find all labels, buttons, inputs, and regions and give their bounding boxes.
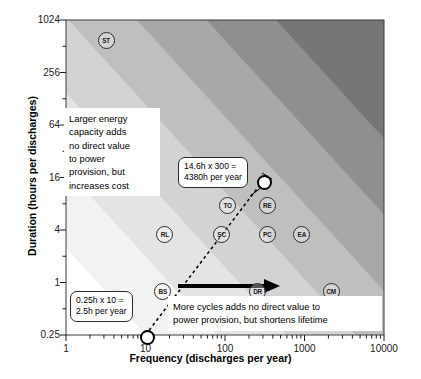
x-tick-label: 100 [195,343,255,354]
horizontal-note-text: More cycles adds no direct value to powe… [168,296,382,331]
x-tick-label: 10000 [354,343,414,354]
chart-figure: Frequency (discharges per year) Duration… [0,0,421,379]
callout-high-throughput: 14.6h x 300 = 4380h per year [178,157,248,188]
y-tick-label: 4 [14,224,60,235]
technology-marker: ST [98,32,115,49]
y-tick-label: 16 [14,172,60,183]
y-tick-label: 0.25 [14,329,60,340]
y-tick-label: 1 [14,277,60,288]
y-tick-label: 256 [14,67,60,78]
technology-marker: RE [259,197,276,214]
vertical-note-text: Larger energy capacity adds no direct va… [64,108,160,196]
x-tick-label: 10 [116,343,176,354]
callout-low-throughput: 0.25h x 10 = 2.5h per year [70,291,133,322]
x-tick-label: 1000 [275,343,335,354]
y-tick-label: 1024 [14,14,60,25]
endpoint-marker-low [140,330,155,345]
x-tick-label: 1 [36,343,96,354]
y-tick-label: 64 [14,119,60,130]
